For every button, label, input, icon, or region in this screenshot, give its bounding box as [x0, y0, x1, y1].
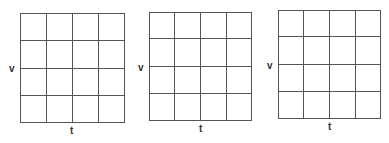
x-axis-label: t — [328, 122, 331, 132]
y-axis-label: v — [267, 61, 273, 71]
y-axis-label: v — [138, 63, 144, 73]
x-axis-label: t — [199, 124, 202, 134]
grid-1 — [20, 13, 125, 123]
grid-2 — [149, 12, 252, 121]
grid-3 — [278, 10, 381, 119]
x-axis-label: t — [70, 126, 73, 136]
y-axis-label: v — [9, 64, 15, 74]
